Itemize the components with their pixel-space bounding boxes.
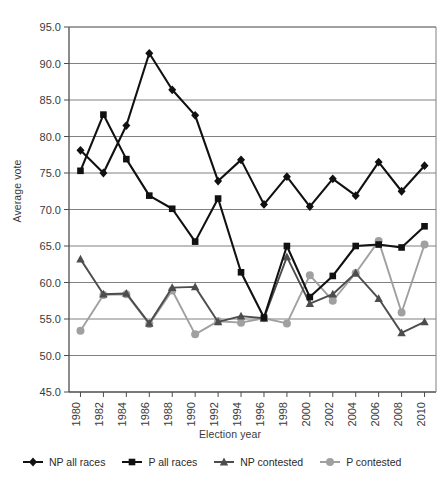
y-axis-tick-label: 85.0 (40, 94, 61, 106)
chart-legend: NP all racesP all racesNP contestedP con… (22, 456, 432, 468)
legend-item-np-contested[interactable]: NP contested (213, 456, 303, 468)
x-axis-tick-label: 2000 (300, 402, 312, 426)
triangle-marker-icon (213, 456, 235, 468)
square-marker-icon (238, 269, 245, 276)
circle-marker-icon (398, 308, 406, 316)
square-marker-icon (100, 111, 107, 118)
y-axis-tick-label: 95.0 (40, 21, 61, 33)
square-marker-icon (129, 459, 136, 466)
gridlines-group (69, 27, 436, 356)
y-axis-tick-label: 75.0 (40, 167, 61, 179)
square-marker-icon (192, 238, 199, 245)
circle-marker-icon (283, 319, 291, 327)
square-marker-icon (261, 314, 268, 321)
square-marker-icon (329, 273, 336, 280)
circle-marker-icon (421, 241, 429, 249)
x-axis-tick-label: 1992 (208, 402, 220, 426)
y-axis-tick-label: 55.0 (40, 313, 61, 325)
series-line (80, 115, 424, 318)
circle-marker-icon (326, 458, 334, 466)
square-marker-icon (146, 192, 153, 199)
x-axis-tick-label: 1980 (70, 402, 82, 426)
legend-label: P all races (148, 456, 197, 468)
x-axis-tick-label: 2002 (323, 402, 335, 426)
legend-item-p-contested[interactable]: P contested (319, 456, 401, 468)
legend-label: NP contested (240, 456, 303, 468)
square-marker-icon (215, 195, 222, 202)
x-axis-tick-label: 2008 (392, 402, 404, 426)
diamond-marker-icon (29, 458, 37, 467)
x-axis-tick-label: 1982 (93, 402, 105, 426)
y-axis-tick-label: 50.0 (40, 350, 61, 362)
x-axis-tick-label: 2004 (346, 402, 358, 426)
series-p-contested (76, 237, 428, 338)
x-axis-tick-label: 1988 (162, 402, 174, 426)
circle-marker-icon (306, 271, 314, 279)
square-marker-icon (169, 205, 176, 212)
legend-label: NP all races (49, 456, 105, 468)
y-axis-ticks-group (64, 27, 69, 392)
x-axis-tick-label: 1994 (231, 402, 243, 426)
square-marker-icon (421, 223, 428, 230)
x-axis-tick-label: 1996 (254, 402, 266, 426)
circle-marker-icon (329, 297, 337, 305)
legend-item-p-all-races[interactable]: P all races (121, 456, 197, 468)
x-axis-tick-label: 2010 (415, 402, 427, 426)
square-marker-icon (375, 241, 382, 248)
x-axis-ticks-group (80, 392, 424, 397)
y-axis-title: Average vote (11, 141, 23, 241)
x-axis-tick-label: 1986 (139, 402, 151, 426)
series-line (80, 53, 424, 206)
x-axis-tick-labels-group: 1980198219841986198819901992199419961998… (70, 402, 426, 426)
legend-item-np-all-races[interactable]: NP all races (22, 456, 105, 468)
y-axis-tick-labels-group: 45.050.055.060.065.070.075.080.085.090.0… (40, 21, 61, 398)
circle-marker-icon (319, 456, 341, 468)
square-marker-icon (307, 294, 314, 301)
circle-marker-icon (76, 327, 84, 335)
data-series-group (76, 49, 428, 338)
series-line (80, 241, 424, 334)
chart-container: 45.050.055.060.065.070.075.080.085.090.0… (0, 0, 447, 481)
x-axis-title: Election year (150, 428, 310, 440)
x-axis-tick-label: 1998 (277, 402, 289, 426)
diamond-marker-icon (122, 121, 130, 130)
y-axis-tick-label: 80.0 (40, 131, 61, 143)
x-axis-tick-label: 1990 (185, 402, 197, 426)
y-axis-tick-label: 65.0 (40, 240, 61, 252)
y-axis-tick-label: 90.0 (40, 58, 61, 70)
series-p-all-races (77, 111, 428, 321)
square-marker-icon (123, 156, 130, 163)
y-axis-tick-label: 70.0 (40, 204, 61, 216)
square-marker-icon (121, 456, 143, 468)
triangle-marker-icon (76, 255, 84, 263)
x-axis-tick-label: 1984 (116, 402, 128, 426)
x-axis-tick-label: 2006 (369, 402, 381, 426)
square-marker-icon (352, 243, 359, 250)
line-chart-plot: 45.050.055.060.065.070.075.080.085.090.0… (0, 0, 447, 481)
circle-marker-icon (191, 330, 199, 338)
y-axis-tick-label: 45.0 (40, 386, 61, 398)
y-axis-tick-label: 60.0 (40, 277, 61, 289)
square-marker-icon (284, 243, 291, 250)
square-marker-icon (398, 244, 405, 251)
diamond-marker-icon (22, 456, 44, 468)
series-np-all-races (76, 49, 428, 211)
legend-label: P contested (346, 456, 401, 468)
square-marker-icon (77, 168, 84, 175)
circle-marker-icon (237, 319, 245, 327)
